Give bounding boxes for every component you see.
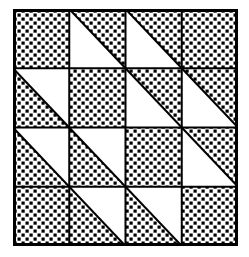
quilt-cell-1-2 <box>126 68 182 127</box>
quilt-cell-3-2 <box>126 187 182 246</box>
quilt-cell-2-1 <box>69 128 125 187</box>
quilt-cell-1-1 <box>69 68 125 127</box>
quilt-cell-2-3 <box>182 128 238 187</box>
quilt-cell-2-2 <box>126 128 182 187</box>
quilt-cell-0-2 <box>126 9 182 68</box>
quilt-cell-3-1 <box>69 187 125 246</box>
quilt-cell-0-0 <box>13 9 69 68</box>
quilt-svg <box>13 9 238 246</box>
quilt-cell-3-0 <box>13 187 69 246</box>
quilt-cell-3-3 <box>182 187 238 246</box>
quilt-cell-2-0 <box>13 128 69 187</box>
quilt-cell-0-1 <box>69 9 125 68</box>
quilt-pattern <box>13 9 238 246</box>
quilt-cell-1-0 <box>13 68 69 127</box>
quilt-cell-0-3 <box>182 9 238 68</box>
quilt-cell-1-3 <box>182 68 238 127</box>
